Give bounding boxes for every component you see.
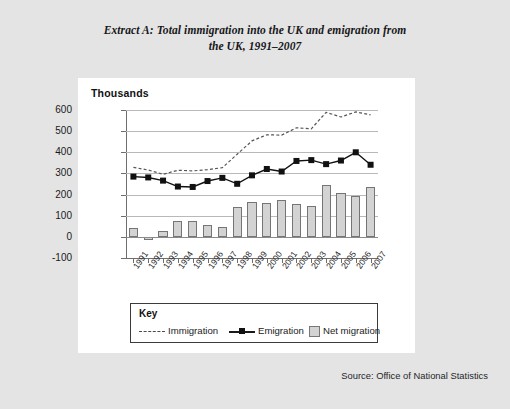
emigration-marker — [145, 174, 151, 180]
legend-item-net-migration: Net migration — [309, 325, 380, 337]
emigration-marker — [353, 149, 359, 155]
emigration-marker — [293, 158, 299, 164]
legend-heading: Key — [139, 308, 157, 319]
emigration-marker — [130, 174, 136, 180]
emigration-marker — [249, 172, 255, 178]
emigration-marker — [205, 178, 211, 184]
y-axis-unit-label: Thousands — [91, 87, 149, 99]
legend-label-immigration: Immigration — [168, 325, 218, 336]
emigration-marker — [279, 169, 285, 175]
plot-area: -1000100200300400500600 1991199219931994… — [126, 110, 378, 258]
emigration-marker — [175, 184, 181, 190]
chart-legend: Key Immigration Emigration Net migration — [130, 303, 378, 343]
emigration-marker — [308, 157, 314, 163]
y-axis-tick-label: 500 — [42, 125, 72, 136]
emigration-marker — [323, 161, 329, 167]
immigration-line — [133, 112, 370, 174]
y-axis-tick-label: 600 — [42, 104, 72, 115]
dotted-line-icon — [139, 326, 165, 336]
page-title-line-1: Extract A: Total immigration into the UK… — [104, 24, 407, 36]
legend-item-immigration: Immigration — [139, 325, 218, 336]
emigration-marker — [160, 178, 166, 184]
y-axis-tick-label: 200 — [42, 189, 72, 200]
y-axis-tick-label: 100 — [42, 210, 72, 221]
legend-item-emigration: Emigration — [229, 325, 304, 336]
line-series-layer — [126, 110, 378, 259]
chart-card: Thousands -1000100200300400500600 199119… — [78, 78, 415, 353]
emigration-marker — [190, 184, 196, 190]
solid-line-square-marker-icon — [229, 326, 255, 336]
y-axis-tick-label: 400 — [42, 146, 72, 157]
page-title-line-2: the UK, 1991–2007 — [209, 40, 302, 52]
emigration-marker — [338, 158, 344, 164]
source-note: Source: Office of National Statistics — [341, 370, 488, 381]
bar-swatch-icon — [309, 326, 320, 337]
page-title: Extract A: Total immigration into the UK… — [60, 22, 450, 54]
emigration-marker — [234, 181, 240, 187]
legend-label-emigration: Emigration — [258, 325, 304, 336]
emigration-line — [133, 152, 370, 187]
emigration-marker — [264, 166, 270, 172]
y-axis-tick-label: 300 — [42, 167, 72, 178]
page-background: Extract A: Total immigration into the UK… — [0, 0, 510, 409]
emigration-marker — [368, 162, 374, 168]
y-axis-tick-label: -100 — [42, 252, 72, 263]
y-axis-tick-label: 0 — [42, 231, 72, 242]
emigration-marker — [219, 175, 225, 181]
legend-label-net-migration: Net migration — [323, 325, 380, 336]
